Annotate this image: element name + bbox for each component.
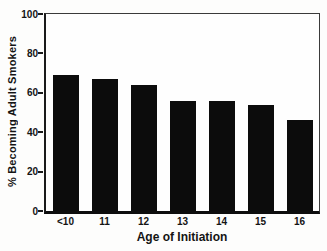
bars-container — [46, 14, 319, 211]
bar-slot — [280, 14, 319, 211]
y-tick-label: 40 — [0, 126, 38, 139]
bar-slot — [241, 14, 280, 211]
x-tick-label: 11 — [85, 216, 124, 228]
bar-slot — [163, 14, 202, 211]
bar-chart-figure: % Becoming Adult Smokers 020406080100 <1… — [0, 0, 327, 251]
bar-age-12 — [131, 85, 157, 211]
y-tick-mark — [38, 210, 43, 212]
x-tick-label: 14 — [202, 216, 241, 228]
y-tick-mark — [38, 171, 43, 173]
bar-slot — [46, 14, 85, 211]
plot-area — [44, 13, 320, 214]
y-tick-mark — [38, 13, 43, 15]
x-tick-label: <10 — [46, 216, 85, 228]
bar-slot — [85, 14, 124, 211]
x-tick-label: 15 — [241, 216, 280, 228]
bar-age-15 — [248, 105, 274, 211]
x-tick-label: 13 — [163, 216, 202, 228]
x-tick-label: 12 — [124, 216, 163, 228]
bar-slot — [202, 14, 241, 211]
y-tick-label: 100 — [0, 8, 38, 21]
y-tick-label: 60 — [0, 86, 38, 99]
bar-slot — [124, 14, 163, 211]
bar-age-16 — [287, 120, 313, 211]
bar-age-13 — [170, 101, 196, 211]
bar-age-11 — [92, 79, 118, 211]
y-axis-title: % Becoming Adult Smokers — [2, 13, 22, 211]
x-tick-label: 16 — [280, 216, 319, 228]
x-axis-title: Age of Initiation — [44, 230, 320, 244]
y-tick-mark — [38, 131, 43, 133]
y-tick-label: 20 — [0, 165, 38, 178]
y-tick-mark — [38, 52, 43, 54]
y-tick-label: 0 — [0, 205, 38, 218]
y-tick-label: 80 — [0, 47, 38, 60]
bar-age-lt10 — [53, 75, 79, 211]
y-tick-mark — [38, 92, 43, 94]
bar-age-14 — [209, 101, 235, 211]
